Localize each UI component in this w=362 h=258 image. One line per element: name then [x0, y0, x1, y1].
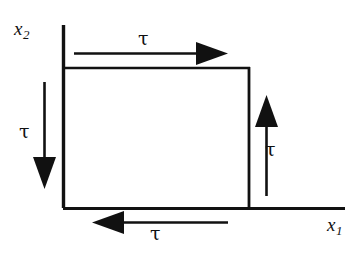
shear-arrow-left: [33, 82, 56, 189]
y-axis-label-subscript: 2: [23, 27, 30, 42]
shear-stress-diagram: x2 x1 τ τ τ τ: [0, 0, 362, 258]
shear-arrow-top-head: [196, 42, 228, 65]
shear-arrow-bottom-label: τ: [150, 224, 161, 243]
shear-arrow-top: [74, 42, 228, 65]
x-axis-label-base: x: [327, 214, 335, 235]
shear-arrow-right-head: [255, 95, 278, 127]
shear-arrow-left-head: [33, 157, 56, 189]
shear-arrow-top-label: τ: [138, 29, 149, 48]
y-axis-label-base: x: [14, 18, 22, 39]
stress-element-rectangle: [63, 67, 250, 208]
shear-arrow-right-label: τ: [265, 140, 276, 159]
diagram-canvas: [0, 0, 362, 258]
shear-arrow-left-label: τ: [19, 122, 30, 141]
shear-arrow-bottom-head: [92, 211, 124, 234]
x-axis-label: x1: [327, 215, 342, 237]
x-axis-label-subscript: 1: [336, 223, 343, 238]
y-axis-label: x2: [14, 19, 29, 41]
